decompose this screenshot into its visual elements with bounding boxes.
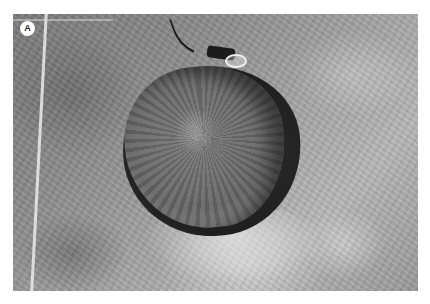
panel-label-badge: A: [20, 21, 35, 36]
visitor-center: [225, 54, 247, 68]
aerial-photo: [13, 14, 418, 291]
